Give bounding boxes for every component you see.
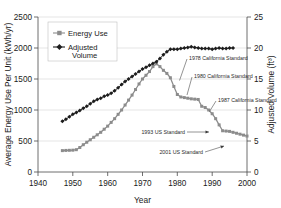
data-point: [246, 135, 249, 138]
data-point: [242, 134, 245, 137]
data-point: [148, 70, 151, 73]
data-point: [82, 143, 85, 146]
data-point: [179, 95, 182, 98]
data-point: [127, 99, 130, 102]
annotation-label-2001-us-standard: 2001 US Standard: [159, 149, 203, 155]
data-point: [158, 65, 161, 68]
data-point: [197, 98, 200, 101]
y-tick-label: 2000: [14, 44, 33, 53]
legend-marker-energy-use: [57, 31, 61, 35]
data-point: [68, 149, 71, 152]
data-point: [225, 130, 228, 133]
data-point: [64, 149, 67, 152]
x-tick-label: 1990: [203, 179, 222, 188]
data-point: [193, 98, 196, 101]
y2-tick-label: 25: [254, 13, 264, 22]
y-tick-label: 2500: [14, 13, 33, 22]
data-point: [200, 105, 203, 108]
data-point: [71, 149, 74, 152]
data-point: [141, 78, 144, 81]
data-point: [138, 82, 141, 85]
data-point: [106, 125, 109, 128]
legend-label-energy-use: Energy Use: [68, 29, 108, 38]
y-axis-title: Average Energy Use Per Unit (kWh/yr): [3, 22, 13, 166]
annotation-label-1980-california-standard: 1980 California Standard: [194, 73, 253, 79]
chart-figure: 0 500 1000 1500 2000 2500 0 5 10 15 20 2…: [0, 0, 281, 208]
data-point: [183, 96, 186, 99]
data-point: [239, 133, 242, 136]
data-point: [99, 131, 102, 134]
data-point: [78, 146, 81, 149]
data-point: [120, 109, 123, 112]
x-tick-label: 2000: [238, 179, 257, 188]
data-point: [110, 121, 113, 124]
legend-label-adjusted-volume-line2: Volume: [72, 51, 97, 60]
data-point: [131, 94, 134, 97]
annotation-label-1993-us-standard: 1993 US Standard: [141, 129, 185, 135]
data-point: [176, 93, 179, 96]
data-point: [117, 113, 120, 116]
data-point: [169, 76, 172, 79]
annotation-label-1978-california-standard: 1978 California Standard: [189, 55, 248, 61]
data-point: [151, 65, 154, 68]
y-tick-label: 1000: [14, 106, 33, 115]
annotation-label-1987-california-standard: 1987 California Standard: [218, 97, 277, 103]
energy-use-adjusted-volume-chart: 0 500 1000 1500 2000 2500 0 5 10 15 20 2…: [0, 0, 281, 208]
x-tick-label: 1980: [168, 179, 187, 188]
data-point: [190, 97, 193, 100]
data-point: [103, 128, 106, 131]
data-point: [204, 106, 207, 109]
y2-axis-title: Adjusted Volume (ft³): [266, 55, 276, 133]
data-point: [221, 129, 224, 132]
y-tick-label: 500: [18, 137, 32, 146]
y2-tick-label: 10: [254, 106, 264, 115]
data-point: [85, 141, 88, 144]
data-point: [96, 133, 99, 136]
data-point: [211, 112, 214, 115]
data-point: [165, 72, 168, 75]
data-point: [89, 138, 92, 141]
data-point: [214, 117, 217, 120]
x-tick-label: 1940: [29, 179, 48, 188]
y2-tick-label: 15: [254, 75, 264, 84]
data-point: [232, 131, 235, 134]
data-point: [218, 123, 221, 126]
chart-legend: Energy Use Adjusted Volume: [48, 22, 117, 61]
data-point: [162, 69, 165, 72]
y2-tick-label: 5: [254, 137, 259, 146]
data-point: [134, 88, 137, 91]
chart-background: [0, 0, 281, 208]
data-point: [172, 85, 175, 88]
x-tick-label: 1970: [133, 179, 152, 188]
data-point: [228, 130, 231, 133]
data-point: [61, 149, 64, 152]
data-point: [144, 74, 147, 77]
y2-tick-label: 20: [254, 44, 264, 53]
x-axis-title: Year: [134, 195, 151, 205]
data-point: [124, 104, 127, 107]
data-point: [113, 117, 116, 120]
y2-tick-label: 0: [254, 168, 259, 177]
x-tick-label: 1960: [99, 179, 118, 188]
x-tick-label: 1950: [64, 179, 83, 188]
y-tick-label: 1500: [14, 75, 33, 84]
data-point: [186, 97, 189, 100]
data-point: [92, 136, 95, 139]
data-point: [75, 148, 78, 151]
y-tick-label: 0: [27, 168, 32, 177]
data-point: [235, 132, 238, 135]
